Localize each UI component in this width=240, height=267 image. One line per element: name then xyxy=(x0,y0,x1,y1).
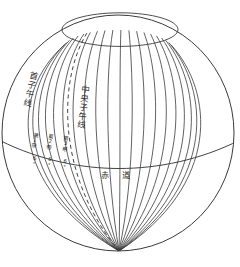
meridian-line xyxy=(63,34,119,251)
meridian-line xyxy=(119,38,184,251)
label-zone-3: 第3带 xyxy=(61,135,68,151)
north-pole-cap-arc xyxy=(62,13,178,47)
label-zone-3-width: 6° xyxy=(61,158,68,170)
label-equator: 赤 道 xyxy=(101,169,135,180)
meridian-line-center xyxy=(108,30,119,251)
meridian-line xyxy=(119,32,156,251)
globe-zone-diagram: 首子午线 中央子午线 第1带 6° 第2带 6° 第3带 6° 赤 道 xyxy=(0,0,240,267)
meridian-line xyxy=(96,30,119,251)
meridian-line xyxy=(73,32,119,251)
meridian-line xyxy=(119,30,121,251)
label-zone-2-width: 6° xyxy=(45,156,52,169)
meridian-line xyxy=(119,36,176,251)
